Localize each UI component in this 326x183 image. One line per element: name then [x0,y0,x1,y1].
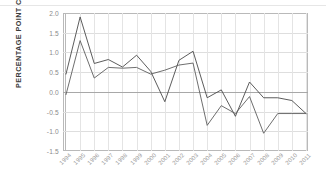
x-tick-label: 2011 [298,152,312,166]
y-tick-label: 1.0 [49,49,59,56]
series-lines [63,13,308,151]
line-chart: PERCENTAGE POINT CHANGE 2.01.51.00.50.0-… [0,0,326,183]
y-tick-label: 2.0 [49,10,59,17]
x-tick-label: 2004 [199,152,213,166]
series-line [66,17,306,116]
x-tick-label: 1998 [115,152,129,166]
x-tick-label: 1997 [101,152,115,166]
x-tick-label: 2002 [171,152,185,166]
x-tick-label: 2008 [256,152,270,166]
series-line [66,41,306,134]
x-tick-label: 2010 [284,152,298,166]
x-tick-label: 2006 [228,152,242,166]
x-tick-label: 1999 [129,152,143,166]
x-tick-label: 2005 [214,152,228,166]
x-tick-label: 1996 [86,152,100,166]
plot-area: 2.01.51.00.50.0-0.5-1.0-1.5 199419951996… [63,13,308,151]
y-tick-label: -1.5 [47,148,59,155]
x-tick-label: 2009 [270,152,284,166]
y-tick-label: -1.0 [47,128,59,135]
y-tick-label: -0.5 [47,108,59,115]
x-tick-label: 1994 [58,152,72,166]
y-tick-label: 0.0 [49,88,59,95]
y-tick-label: 1.5 [49,29,59,36]
x-tick-label: 2001 [157,152,171,166]
x-tick-label: 2000 [143,152,157,166]
y-tick-label: 0.5 [49,69,59,76]
x-tick-label: 1995 [72,152,86,166]
x-tick-label: 2003 [185,152,199,166]
y-axis-label: PERCENTAGE POINT CHANGE [14,0,23,100]
x-tick-label: 2007 [242,152,256,166]
